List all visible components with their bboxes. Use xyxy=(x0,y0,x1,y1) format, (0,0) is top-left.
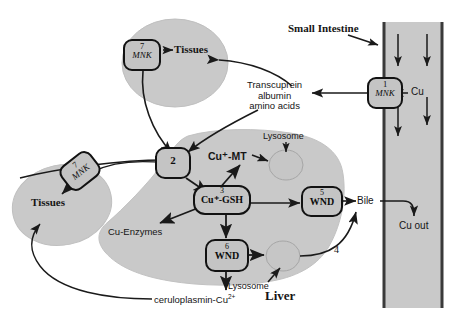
box-2-number: 2 xyxy=(156,155,190,166)
cu-enzymes-label: Cu-Enzymes xyxy=(108,226,162,237)
bile-label: Bile xyxy=(357,195,374,206)
box-5-content[interactable]: 5 WND xyxy=(302,189,342,207)
box-6-content[interactable]: 6 WND xyxy=(206,243,248,261)
transcuprein-label: Transcuprein albumin amino acids xyxy=(247,80,302,112)
lysosome-bottom-label: Lysosome xyxy=(228,281,269,291)
small-intestine-label: Small Intestine xyxy=(288,22,359,34)
box-1-content[interactable]: 1 MNK xyxy=(368,80,402,98)
transcuprein-line-3: amino acids xyxy=(247,101,302,112)
tissues-top-label: Tissues xyxy=(174,43,208,55)
box-2-content[interactable]: 2 xyxy=(156,155,190,166)
lysosome-bottom-shape xyxy=(266,241,300,271)
box-1-gene: MNK xyxy=(368,89,402,98)
box-7-top-gene: MNK xyxy=(124,51,160,60)
liver-label: Liver xyxy=(265,288,295,304)
small-intestine-band xyxy=(383,22,444,308)
diagram-canvas: Small Intestine Cu Cu out Bile 4 Transcu… xyxy=(0,0,452,320)
box-6-gene: WND xyxy=(206,251,248,261)
cu-in-label: Cu xyxy=(411,86,424,97)
transcuprein-line-1: Transcuprein xyxy=(247,80,302,91)
ceruloplasmin-label: ceruloplasmin-Cu2+ xyxy=(154,293,235,305)
box-5-gene: WND xyxy=(302,197,342,207)
lysosome-top-shape xyxy=(269,150,303,180)
lysosome-top-label: Lysosome xyxy=(263,131,304,141)
box-3-content[interactable]: 3 Cu⁺-GSH xyxy=(194,187,250,205)
tissues-left-label: Tissues xyxy=(31,196,65,208)
box-7-top-content[interactable]: 7 MNK xyxy=(124,42,160,60)
cu-mt-label: Cu⁺-MT xyxy=(208,150,247,162)
arrow-small-intestine-label xyxy=(348,35,378,45)
box-3-gene: Cu⁺-GSH xyxy=(194,195,250,205)
ceruloplasmin-charge: 2+ xyxy=(228,293,235,300)
step-4-label: 4 xyxy=(334,244,339,255)
cu-out-label: Cu out xyxy=(399,220,428,231)
